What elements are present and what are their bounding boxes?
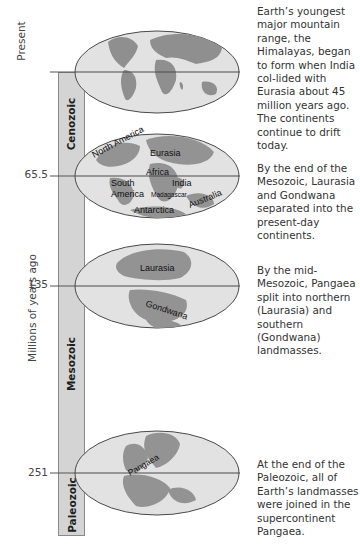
description-135: By the mid-Mesozoic, Pangaea split into … xyxy=(257,264,360,358)
label-madagascar: Madagascar xyxy=(151,191,188,199)
description-251: At the end of the Paleozoic, all of Eart… xyxy=(257,458,360,538)
label-antarctica: Antarctica xyxy=(134,205,174,215)
label-south-america: South xyxy=(111,178,135,188)
label-africa: Africa xyxy=(146,167,169,177)
label-india: India xyxy=(172,178,192,188)
label-south-america-2: America xyxy=(111,189,144,199)
map-135: Laurasia Gondwana xyxy=(75,244,239,329)
label-laurasia: Laurasia xyxy=(140,263,175,273)
label-eurasia: Eurasia xyxy=(150,148,181,158)
map-251: Pangaea xyxy=(75,431,239,515)
map-65-5: North America Eurasia Africa South Ameri… xyxy=(75,124,239,218)
map-present xyxy=(75,31,239,113)
description-present: Earth’s youngest major mountain range, t… xyxy=(257,5,360,152)
description-65-5: By the end of the Mesozoic, Laurasia and… xyxy=(257,162,360,242)
